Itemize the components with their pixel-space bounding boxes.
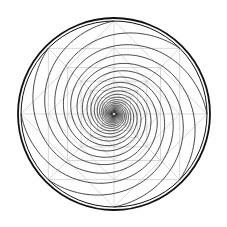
spiral-mandala-diagram — [0, 0, 227, 227]
square-grid — [21, 21, 207, 207]
